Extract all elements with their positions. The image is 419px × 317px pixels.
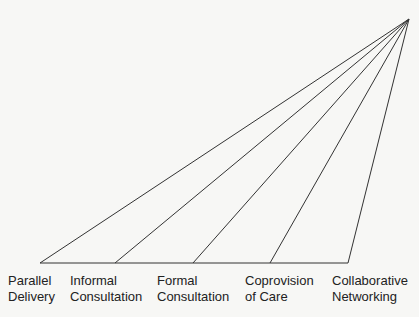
fan-diagram xyxy=(0,0,419,317)
label-line2: of Care xyxy=(245,289,314,305)
label-line1: Coprovision xyxy=(245,273,314,289)
label-informal-consultation: Informal Consultation xyxy=(70,273,142,305)
label-collaborative-networking: Collaborative Networking xyxy=(332,273,408,305)
ray-line xyxy=(270,19,409,263)
label-formal-consultation: Formal Consultation xyxy=(157,273,229,305)
label-line2: Delivery xyxy=(8,289,55,305)
label-line1: Formal xyxy=(157,273,229,289)
label-line2: Networking xyxy=(332,289,408,305)
label-line2: Consultation xyxy=(70,289,142,305)
ray-line xyxy=(40,19,409,263)
label-line2: Consultation xyxy=(157,289,229,305)
ray-line xyxy=(348,19,409,263)
label-coprovision-of-care: Coprovision of Care xyxy=(245,273,314,305)
label-parallel-delivery: Parallel Delivery xyxy=(8,273,55,305)
label-line1: Informal xyxy=(70,273,142,289)
ray-line xyxy=(115,19,409,263)
label-line1: Parallel xyxy=(8,273,55,289)
label-line1: Collaborative xyxy=(332,273,408,289)
